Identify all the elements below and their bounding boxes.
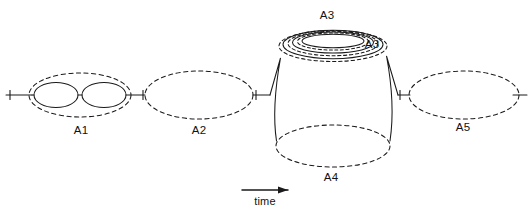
barrel-right-wall [387, 56, 399, 141]
a5-dashed-ellipse [409, 71, 519, 119]
label-a2: A2 [192, 124, 207, 136]
label-a3-outer: A3 [320, 9, 335, 21]
component-a5[interactable] [409, 71, 519, 119]
label-a4: A4 [324, 171, 339, 183]
a1-inner-ellipse-left [34, 83, 78, 108]
cobordism-diagram: A1 A2 A3 A3 A4 A5 time [0, 0, 531, 215]
diagram-canvas: A1 A2 A3 A3 A4 A5 time [0, 0, 531, 215]
a3-ring-6-solid-inner [302, 34, 364, 48]
junction-a2-barrel [253, 91, 270, 100]
a2-dashed-ellipse [145, 71, 253, 119]
barrel-left-wall [270, 58, 281, 141]
label-a5: A5 [456, 121, 471, 133]
a4-dashed-ellipse [276, 125, 390, 167]
junction-barrel-a5 [398, 91, 410, 100]
component-a1[interactable] [29, 73, 145, 117]
label-a3-inner: A3 [365, 38, 380, 50]
component-a2[interactable] [145, 71, 253, 119]
label-time: time [254, 195, 276, 207]
a3-ring-4-solid [293, 32, 374, 53]
label-a1: A1 [74, 124, 89, 136]
left-stub [6, 91, 32, 100]
time-arrow [242, 186, 288, 193]
barrel-body[interactable] [270, 56, 398, 141]
a1-inner-ellipse-right [82, 83, 126, 108]
a4-bottom[interactable] [276, 125, 390, 167]
